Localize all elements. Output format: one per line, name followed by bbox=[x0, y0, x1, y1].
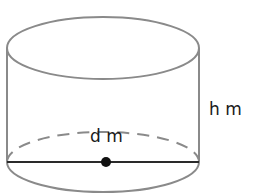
center-point bbox=[101, 157, 111, 167]
top-face-ellipse bbox=[7, 17, 199, 79]
height-label: h m bbox=[209, 99, 242, 119]
diameter-label: d m bbox=[90, 126, 123, 146]
bottom-face-front-arc bbox=[7, 162, 199, 192]
cylinder-diagram: d m h m bbox=[0, 0, 266, 195]
